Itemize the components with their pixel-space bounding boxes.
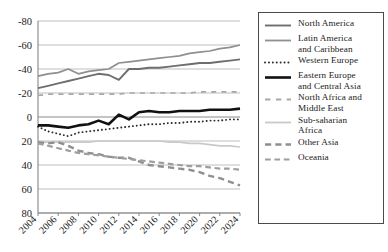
x-axis-tick-label: 2014 xyxy=(117,214,139,236)
legend-item-label: Oceania xyxy=(298,152,329,163)
line-chart-svg: 806040200-20-40-60-802004200620082010201… xyxy=(0,0,252,252)
y-axis-tick-label: -20 xyxy=(18,88,32,99)
x-axis-tick-label: 2012 xyxy=(97,214,119,236)
svg-text:2024: 2024 xyxy=(218,214,240,236)
y-axis-tick-label: -60 xyxy=(18,40,32,51)
x-axis-tick-label: 2018 xyxy=(158,214,180,236)
x-axis-tick-label: 2006 xyxy=(37,214,59,236)
series-line-latin-america-and-caribbean xyxy=(38,45,240,76)
x-axis-tick-label: 2008 xyxy=(57,214,79,236)
legend-line-swatch-icon xyxy=(264,153,292,166)
x-axis-tick-label: 2004 xyxy=(16,214,38,236)
legend-item-label: Western Europe xyxy=(298,55,358,66)
y-axis-tick-label: 60 xyxy=(22,184,33,195)
legend-line-swatch-icon xyxy=(264,71,292,84)
series-line-north-america xyxy=(38,59,240,88)
legend-item[interactable]: North Africa and Middle East xyxy=(264,92,379,113)
legend-line-swatch-icon xyxy=(264,116,292,129)
series-line-north-africa-and-middle-east xyxy=(38,92,240,96)
svg-text:2004: 2004 xyxy=(16,214,38,236)
chart-plot-area: 806040200-20-40-60-802004200620082010201… xyxy=(0,0,252,252)
series-line-oceania xyxy=(38,143,240,169)
x-axis-tick-label: 2024 xyxy=(218,214,240,236)
svg-text:2014: 2014 xyxy=(117,214,139,236)
legend-item-label: Eastern Europe and Central Asia xyxy=(298,70,361,91)
legend-item[interactable]: Latin America and Caribbean xyxy=(264,33,379,54)
x-axis-tick-label: 2022 xyxy=(198,214,220,236)
legend-item[interactable]: Other Asia xyxy=(264,137,379,151)
legend-item-label: Sub-saharian Africa xyxy=(298,115,347,136)
legend-item[interactable]: Western Europe xyxy=(264,55,379,69)
legend-item[interactable]: Eastern Europe and Central Asia xyxy=(264,70,379,91)
legend-line-swatch-icon xyxy=(264,93,292,106)
svg-text:2008: 2008 xyxy=(57,214,79,236)
legend-item-label: Latin America and Caribbean xyxy=(298,33,353,54)
legend-line-swatch-icon xyxy=(264,34,292,47)
y-axis-tick-label: -80 xyxy=(18,16,32,27)
chart-legend: North AmericaLatin America and Caribbean… xyxy=(258,12,384,224)
legend-item[interactable]: Sub-saharian Africa xyxy=(264,115,379,136)
x-axis-tick-label: 2020 xyxy=(178,214,200,236)
legend-item[interactable]: North America xyxy=(264,18,379,32)
legend-item-label: North Africa and Middle East xyxy=(298,92,362,113)
svg-text:2006: 2006 xyxy=(37,214,59,236)
legend-line-swatch-icon xyxy=(264,138,292,151)
svg-text:2022: 2022 xyxy=(198,214,220,236)
svg-text:2018: 2018 xyxy=(158,214,180,236)
chart-page: 806040200-20-40-60-802004200620082010201… xyxy=(0,0,388,252)
svg-text:2020: 2020 xyxy=(178,214,200,236)
legend-line-swatch-icon xyxy=(264,56,292,69)
y-axis-tick-label: 20 xyxy=(22,136,33,147)
legend-item-label: North America xyxy=(298,18,354,29)
y-axis-tick-label: -40 xyxy=(18,64,32,75)
legend-item[interactable]: Oceania xyxy=(264,152,379,166)
svg-text:2010: 2010 xyxy=(77,214,99,236)
legend-line-swatch-icon xyxy=(264,19,292,32)
svg-text:2012: 2012 xyxy=(97,214,119,236)
svg-text:2016: 2016 xyxy=(138,214,160,236)
y-axis-tick-label: 0 xyxy=(27,112,32,123)
series-line-other-asia xyxy=(38,142,240,185)
y-axis-tick-label: 40 xyxy=(22,160,33,171)
x-axis-tick-label: 2016 xyxy=(138,214,160,236)
series-line-eastern-europe-and-central-asia xyxy=(38,109,240,128)
x-axis-tick-label: 2010 xyxy=(77,214,99,236)
legend-item-label: Other Asia xyxy=(298,137,339,148)
